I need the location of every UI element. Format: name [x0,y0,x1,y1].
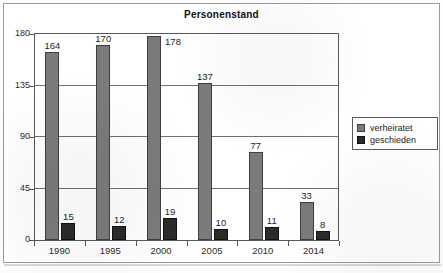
x-axis-tickmark-2010 [237,241,238,246]
bar-verheiratet-1990[interactable] [45,52,59,240]
x-axis-tick-1995: 1995 [85,245,135,256]
gridline-90 [35,136,338,137]
y-axis-tick-90: 90 [0,131,30,141]
x-axis-tick-2014: 2014 [289,245,339,256]
divorced-swatch-icon [357,136,365,144]
bar-verheiratet-2000[interactable] [147,36,161,240]
bar-label-geschieden-2005: 10 [211,217,231,228]
x-axis-tickmark-2000 [136,241,137,246]
x-axis-tickmark-2014 [288,241,289,246]
legend-item-geschieden[interactable]: geschieden [357,134,433,145]
y-axis-tick-0: 0 [0,234,30,244]
bar-label-verheiratet-1990: 164 [42,40,62,51]
y-axis-tickmark-135 [29,86,35,87]
y-axis-tickmark-90 [29,137,35,138]
bar-label-geschieden-2010: 11 [262,215,282,226]
bar-label-verheiratet-1995: 170 [93,33,113,44]
y-axis-tickmark-180 [29,34,35,35]
gridline-45 [35,188,338,189]
bar-verheiratet-2010[interactable] [249,152,263,240]
chart-page: Personenstand 16415170121781913710771133… [0,0,443,273]
bar-geschieden-2000[interactable] [163,218,177,240]
bar-geschieden-1990[interactable] [61,223,75,240]
y-axis-tickmark-45 [29,189,35,190]
x-axis-tickmark-1995 [85,241,86,246]
bar-geschieden-1995[interactable] [112,226,126,240]
bar-verheiratet-1995[interactable] [96,45,110,240]
y-axis-tick-45: 45 [0,183,30,193]
legend-item-verheiratet[interactable]: verheiratet [357,122,433,133]
y-axis-tick-180: 180 [0,28,30,38]
x-axis-tickmark-end [339,241,340,246]
x-axis-tick-2000: 2000 [136,245,186,256]
bar-label-geschieden-2000: 19 [160,206,180,217]
bar-label-verheiratet-2010: 77 [246,140,266,151]
bar-geschieden-2014[interactable] [316,231,330,240]
legend-label-verheiratet: verheiratet [370,123,413,133]
bar-label-geschieden-2014: 8 [313,219,333,230]
frame-shadow [4,264,441,266]
bar-label-verheiratet-2000: 178 [165,36,181,47]
bar-geschieden-2005[interactable] [214,229,228,240]
bar-label-verheiratet-2014: 33 [297,190,317,201]
plot-area: 164151701217819137107711338 [34,33,339,241]
x-axis-tickmark-2005 [187,241,188,246]
bar-label-geschieden-1995: 12 [109,214,129,225]
legend-label-geschieden: geschieden [370,135,416,145]
married-swatch-icon [357,124,365,132]
x-axis-tickmark-1990 [34,241,35,246]
bar-verheiratet-2005[interactable] [198,83,212,240]
x-axis-tick-1990: 1990 [34,245,84,256]
bar-geschieden-2010[interactable] [265,227,279,240]
bar-label-geschieden-1990: 15 [58,211,78,222]
bar-label-verheiratet-2005: 137 [195,71,215,82]
chart-title: Personenstand [0,9,443,20]
x-axis-tick-2005: 2005 [187,245,237,256]
y-axis-tick-135: 135 [0,80,30,90]
chart-legend: verheiratet geschieden [352,117,438,150]
bar-verheiratet-2014[interactable] [300,202,314,240]
gridline-135 [35,85,338,86]
x-axis-tick-2010: 2010 [238,245,288,256]
